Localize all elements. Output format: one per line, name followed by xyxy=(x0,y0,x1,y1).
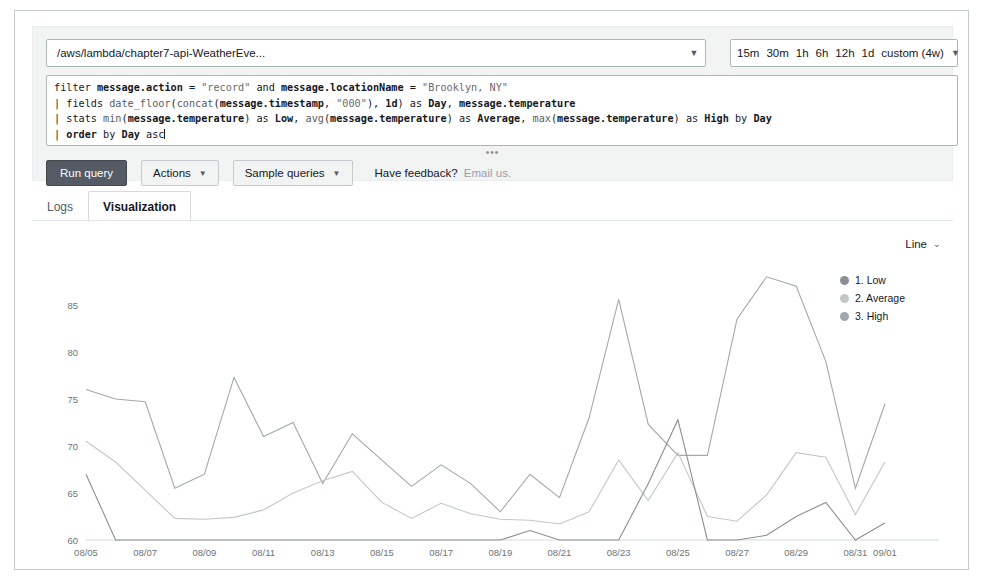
legend-color-swatch-icon xyxy=(840,276,849,285)
x-axis-tick-label: 08/27 xyxy=(725,547,749,558)
x-axis-tick-label: 08/17 xyxy=(429,547,453,558)
feedback-area: Have feedback? Email us. xyxy=(375,167,512,179)
x-axis-tick-label: 08/19 xyxy=(488,547,512,558)
y-axis-tick-label: 70 xyxy=(67,441,78,452)
chevron-down-icon[interactable]: ▼ xyxy=(951,48,960,58)
x-axis-tick-label: 08/09 xyxy=(192,547,216,558)
y-axis-tick-label: 75 xyxy=(67,394,78,405)
query-panel: /aws/lambda/chapter7-api-WeatherEve... ▼… xyxy=(32,26,953,181)
chart-legend: Line ⌄ 1. Low2. Average3. High xyxy=(840,238,945,328)
feedback-text: Have feedback? xyxy=(375,167,458,179)
log-group-value: /aws/lambda/chapter7-api-WeatherEve... xyxy=(47,47,683,59)
actions-button[interactable]: Actions ▼ xyxy=(141,160,219,186)
time-range-1d[interactable]: 1d xyxy=(862,47,875,59)
series-line-low xyxy=(86,420,885,540)
x-axis-tick-label: 08/07 xyxy=(133,547,157,558)
x-axis-tick-label: 08/31 xyxy=(844,547,868,558)
time-range-12h[interactable]: 12h xyxy=(835,47,854,59)
query-actions-row: Run query Actions ▼ Sample queries ▼ Hav… xyxy=(46,160,511,186)
query-line-3: | stats min(message.temperature) as Low,… xyxy=(54,111,950,127)
chevron-down-icon: ▼ xyxy=(199,169,207,178)
query-line-4: | order by Day asc xyxy=(54,127,950,143)
series-line-average xyxy=(86,441,885,524)
time-range-6h[interactable]: 6h xyxy=(816,47,829,59)
line-chart-svg: 60657075808508/0508/0708/0908/1108/1308/… xyxy=(32,224,953,571)
y-axis-tick-label: 60 xyxy=(67,535,78,546)
y-axis-tick-label: 65 xyxy=(67,488,78,499)
tab-divider xyxy=(32,220,953,221)
text-cursor xyxy=(164,129,165,139)
query-code: filter message.action = "record" and mes… xyxy=(54,80,950,142)
time-range-selector[interactable]: 15m 30m 1h 6h 12h 1d custom (4w) ▼ xyxy=(730,39,958,67)
tab-visualization[interactable]: Visualization xyxy=(88,191,191,222)
time-range-30m[interactable]: 30m xyxy=(766,47,788,59)
legend-item-label: 1. Low xyxy=(855,274,886,286)
legend-item-label: 2. Average xyxy=(855,292,905,304)
x-axis-tick-label: 08/05 xyxy=(74,547,98,558)
x-axis-tick-label: 08/13 xyxy=(311,547,335,558)
x-axis-tick-label: 08/29 xyxy=(784,547,808,558)
cloudwatch-logs-insights-screen: /aws/lambda/chapter7-api-WeatherEve... ▼… xyxy=(0,0,983,582)
chevron-down-icon[interactable]: ⌄ xyxy=(933,239,941,249)
email-us-link[interactable]: Email us. xyxy=(464,167,511,179)
y-axis-tick-label: 85 xyxy=(67,300,78,311)
chart-type-label: Line xyxy=(905,238,927,250)
chevron-down-icon[interactable]: ▼ xyxy=(683,48,705,58)
log-group-selector[interactable]: /aws/lambda/chapter7-api-WeatherEve... ▼ xyxy=(46,39,706,67)
time-range-custom[interactable]: custom (4w) xyxy=(881,47,944,59)
query-line-1: filter message.action = "record" and mes… xyxy=(54,80,950,96)
chart-type-selector[interactable]: Line ⌄ xyxy=(840,238,945,250)
run-query-button[interactable]: Run query xyxy=(46,160,127,186)
legend-item[interactable]: 2. Average xyxy=(840,292,945,304)
legend-item-label: 3. High xyxy=(855,310,888,322)
sample-queries-button[interactable]: Sample queries ▼ xyxy=(233,160,353,186)
y-axis-tick-label: 80 xyxy=(67,347,78,358)
chevron-down-icon: ▼ xyxy=(333,169,341,178)
time-range-15m[interactable]: 15m xyxy=(737,47,759,59)
tab-logs[interactable]: Logs xyxy=(32,191,88,222)
legend-item-list: 1. Low2. Average3. High xyxy=(840,274,945,322)
app-frame: /aws/lambda/chapter7-api-WeatherEve... ▼… xyxy=(14,10,969,570)
series-line-high xyxy=(86,277,885,512)
actions-label: Actions xyxy=(153,167,191,179)
query-editor[interactable]: filter message.action = "record" and mes… xyxy=(46,75,958,146)
result-tabs: Logs Visualization xyxy=(32,191,191,222)
visualization-chart: 60657075808508/0508/0708/0908/1108/1308/… xyxy=(32,224,953,571)
legend-item[interactable]: 1. Low xyxy=(840,274,945,286)
query-line-2: | fields date_floor(concat(message.times… xyxy=(54,96,950,112)
x-axis-tick-label: 08/15 xyxy=(370,547,394,558)
time-range-1h[interactable]: 1h xyxy=(796,47,809,59)
x-axis-tick-label: 08/11 xyxy=(252,547,275,558)
legend-color-swatch-icon xyxy=(840,294,849,303)
legend-item[interactable]: 3. High xyxy=(840,310,945,322)
legend-color-swatch-icon xyxy=(840,312,849,321)
x-axis-tick-label: 08/25 xyxy=(666,547,690,558)
x-axis-tick-label: 09/01 xyxy=(873,547,897,558)
sample-queries-label: Sample queries xyxy=(245,167,325,179)
panel-resize-handle[interactable]: ••• xyxy=(33,149,952,157)
x-axis-tick-label: 08/21 xyxy=(548,547,572,558)
x-axis-tick-label: 08/23 xyxy=(607,547,631,558)
